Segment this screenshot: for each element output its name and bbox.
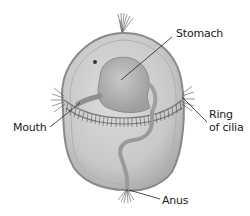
label-ring-line2: of cilia [209,121,243,134]
eyespot [93,60,97,64]
apical-tuft [118,13,133,33]
ring-leader-line [182,97,207,122]
anus-leader-line [129,190,160,199]
stomach-shape [98,57,150,112]
diagram-canvas: Stomach Ring of cilia Mouth Anus [0,0,250,216]
label-ring-line1: Ring [209,108,233,121]
label-stomach: Stomach [176,27,223,40]
label-mouth: Mouth [13,121,46,134]
label-anus: Anus [162,194,188,207]
